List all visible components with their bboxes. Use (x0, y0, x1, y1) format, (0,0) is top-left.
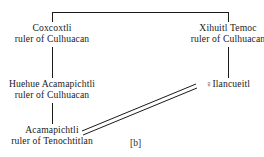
node-huehue-acamapichtli-name: Huehue Acamapichtli (9, 78, 95, 89)
node-huehue-acamapichtli: Huehue Acamapichtli ruler of Culhuacan (9, 78, 95, 101)
node-coxcoxtli-title: ruler of Culhuacan (15, 33, 90, 44)
node-acamapichtli-title: ruler of Tenochtitlan (11, 135, 93, 146)
genealogy-chart: Coxcoxtli ruler of Culhuacan Xihuitl Tem… (0, 0, 264, 157)
node-acamapichtli: Acamapichtli ruler of Tenochtitlan (11, 124, 93, 147)
node-xihuitl-temoc: Xihuitl Temoc ruler of Culhuacan (191, 22, 264, 45)
node-coxcoxtli: Coxcoxtli ruler of Culhuacan (15, 22, 90, 45)
sibling-bracket-horizontal (52, 12, 229, 13)
node-huehue-acamapichtli-title: ruler of Culhuacan (9, 89, 95, 100)
descent-line-huehue-to-acamapichtli (52, 103, 53, 124)
node-ilancueitl: ♀Ilancueitl (206, 78, 250, 89)
sibling-bracket-stub-right (228, 12, 229, 22)
descent-line-xihuitl-to-ilancueitl (228, 47, 229, 78)
node-acamapichtli-name: Acamapichtli (11, 124, 93, 135)
node-xihuitl-temoc-title: ruler of Culhuacan (191, 33, 264, 44)
node-ilancueitl-name-row: ♀Ilancueitl (206, 78, 250, 89)
figure-label: [b] (130, 138, 141, 148)
node-coxcoxtli-name: Coxcoxtli (15, 22, 90, 33)
sibling-bracket-stub-left (52, 12, 53, 22)
descent-line-coxcoxtli-to-huehue (52, 47, 53, 78)
node-xihuitl-temoc-name: Xihuitl Temoc (191, 22, 264, 33)
node-ilancueitl-name: Ilancueitl (212, 78, 250, 89)
